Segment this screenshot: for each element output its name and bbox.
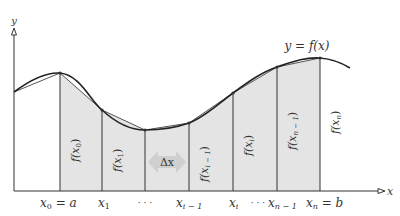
delta-x-label: Δx xyxy=(160,156,175,169)
shaded-area xyxy=(60,58,320,191)
x-axis-label: x xyxy=(387,185,394,198)
tick-label-dots-1: · · · xyxy=(138,198,152,208)
height-label-fn: f(xn) xyxy=(329,111,343,135)
height-label-f0: f(x0) xyxy=(69,139,83,163)
height-label-fi: f(xi) xyxy=(242,135,256,157)
tick-label-dots-2: · · · xyxy=(251,198,265,208)
tick-label-xn: xn = b xyxy=(306,196,343,211)
riemann-diagram: Δx y x y = f(x) x0 = a x1 · · · xi − 1 x… xyxy=(0,0,400,216)
tick-labels: x0 = a x1 · · · xi − 1 xi · · · xn − 1 x… xyxy=(40,196,343,211)
tick-label-xnm1: xn − 1 xyxy=(268,196,297,211)
height-label-f1: f(x1) xyxy=(111,149,125,173)
y-axis-label: y xyxy=(10,15,17,26)
tick-label-xim1: xi − 1 xyxy=(176,196,202,211)
tick-label-xi: xi xyxy=(229,196,239,211)
x-axis-arrow-icon xyxy=(378,189,385,194)
tick-label-x0: x0 = a xyxy=(40,196,77,211)
curve-label: y = f(x) xyxy=(283,39,329,53)
y-axis-arrow-icon xyxy=(12,28,17,35)
tick-label-x1: x1 xyxy=(98,196,110,211)
